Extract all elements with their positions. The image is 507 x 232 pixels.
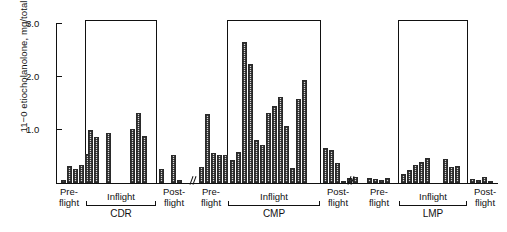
xlabel-line2: flight <box>196 198 226 209</box>
xlabel-line2: flight <box>157 198 191 209</box>
bar-cmp-preflight-3 <box>217 155 222 183</box>
subject-label-cdr: CDR <box>86 208 156 219</box>
xlabel-cdr-preflight: Pre- flight <box>54 187 84 208</box>
bar-cdr-preflight-1 <box>67 166 72 184</box>
bar-cmp-inflight-2 <box>242 42 247 184</box>
xlabel-line2: flight <box>54 198 84 209</box>
xlabel-line1: Inflight <box>399 192 467 203</box>
bar-lmp-inflight-4 <box>425 158 430 183</box>
bar-lmp-inflight-8 <box>449 167 454 183</box>
bar-cmp-preflight-4 <box>223 155 228 183</box>
bar-lmp-preflight-1 <box>373 179 378 183</box>
bar-cmp-postflight-0 <box>323 148 328 183</box>
bar-cmp-inflight-7 <box>272 106 277 183</box>
subject-rule-cmp <box>228 205 320 206</box>
xlabel-lmp-preflight: Pre- flight <box>364 187 394 208</box>
xlabel-cmp-inflight: Inflight <box>228 192 320 203</box>
bar-cmp-postflight-2 <box>335 163 340 183</box>
bar-cdr-preflight-2 <box>73 169 78 183</box>
subject-label-cmp: CMP <box>228 208 320 219</box>
xlabel-lmp-postflight: Post- flight <box>468 187 502 208</box>
bar-cdr-inflight-7 <box>130 129 135 183</box>
xlabel-line1: Pre- <box>196 187 226 198</box>
bar-cdr-postflight-0 <box>159 169 164 183</box>
bar-cmp-inflight-3 <box>248 64 253 183</box>
bar-lmp-postflight-1 <box>476 180 481 183</box>
bar-cdr-inflight-8 <box>136 113 141 184</box>
xlabel-line1: Post- <box>468 187 502 198</box>
bar-cdr-inflight-1 <box>94 137 99 183</box>
bar-cmp-inflight-0 <box>230 160 235 183</box>
bar-lmp-inflight-9 <box>455 166 460 184</box>
bar-cmp-inflight-8 <box>278 97 283 183</box>
bar-lmp-inflight-3 <box>419 162 424 183</box>
bar-cmp-inflight-12 <box>302 80 307 183</box>
xlabel-line2: flight <box>321 198 355 209</box>
bar-cdr-postflight-2 <box>171 155 176 183</box>
bar-lmp-inflight-0 <box>401 174 406 184</box>
subject-label-lmp: LMP <box>399 208 467 219</box>
bar-cmp-inflight-1 <box>236 152 241 183</box>
xlabel-cmp-preflight: Pre- flight <box>196 187 226 208</box>
bar-lmp-postflight-2 <box>482 177 487 183</box>
bar-cmp-inflight-6 <box>266 113 271 183</box>
bar-cdr-inflight-0 <box>88 130 93 183</box>
bar-lmp-inflight-7 <box>443 159 448 183</box>
bar-cmp-inflight-4 <box>254 140 259 184</box>
bar-cdr-preflight-3 <box>79 165 84 183</box>
bar-lmp-preflight-3 <box>385 178 390 183</box>
subject-rule-lmp <box>399 205 467 206</box>
xlabel-line1: Post- <box>157 187 191 198</box>
bar-lmp-inflight-1 <box>407 170 412 183</box>
bar-cmp-inflight-5 <box>260 145 265 183</box>
bar-cmp-preflight-0 <box>199 167 204 183</box>
subject-rule-cdr <box>86 205 156 206</box>
xlabel-cdr-inflight: Inflight <box>86 192 156 203</box>
bar-lmp-preflight-0 <box>367 178 372 183</box>
bar-cmp-inflight-10 <box>290 168 295 183</box>
bar-cdr-postflight-3 <box>177 180 182 183</box>
bar-lmp-postflight-3 <box>488 181 493 183</box>
chart-figure: 11−0 etiocholanolone, mg/total volume 3.… <box>0 0 507 232</box>
bar-cdr-inflight-9 <box>142 136 147 183</box>
xlabel-cmp-postflight: Post- flight <box>321 187 355 208</box>
bar-cmp-inflight-11 <box>296 99 301 183</box>
bar-cmp-preflight-2 <box>211 153 216 183</box>
xlabel-line1: Pre- <box>364 187 394 198</box>
bar-cmp-preflight-1 <box>205 114 210 183</box>
bar-cdr-preflight-0 <box>61 180 66 183</box>
xlabel-line1: Inflight <box>86 192 156 203</box>
xlabel-cdr-postflight: Post- flight <box>157 187 191 208</box>
xlabel-line2: flight <box>468 198 502 209</box>
bar-lmp-preflight-2 <box>379 180 384 183</box>
bar-cmp-postflight-3 <box>341 181 346 183</box>
xlabel-line1: Post- <box>321 187 355 198</box>
bar-cdr-inflight-3 <box>106 133 111 183</box>
xlabel-lmp-inflight: Inflight <box>399 192 467 203</box>
bar-cmp-postflight-1 <box>329 150 334 183</box>
bar-lmp-inflight-2 <box>413 165 418 183</box>
xlabel-line1: Inflight <box>228 192 320 203</box>
bar-lmp-postflight-0 <box>470 179 475 183</box>
xlabel-line2: flight <box>364 198 394 209</box>
xlabel-line1: Pre- <box>54 187 84 198</box>
bar-cmp-inflight-9 <box>284 126 289 183</box>
